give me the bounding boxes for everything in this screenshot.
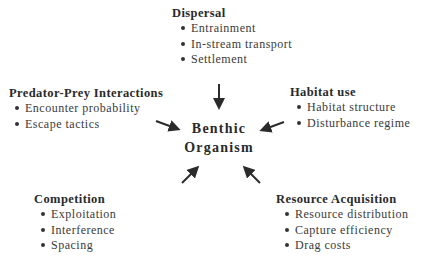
bullet-icon <box>41 212 45 216</box>
list-item: Drag costs <box>285 238 408 254</box>
group-predator-prey: Predator-Prey Interactions Encounter pro… <box>9 86 163 132</box>
bullet-icon <box>285 228 289 232</box>
center-line2: Organism <box>181 138 257 157</box>
arrow-resource <box>247 170 260 183</box>
list-item: Disturbance regime <box>297 116 410 132</box>
list-item: Exploitation <box>41 207 116 223</box>
list-item: In-stream transport <box>181 37 292 53</box>
group-competition: Competition Exploitation Interference Sp… <box>34 192 116 254</box>
group-title: Predator-Prey Interactions <box>9 86 163 101</box>
group-title: Resource Acquisition <box>276 192 408 207</box>
list-item: Resource distribution <box>285 207 408 223</box>
list-item: Encounter probability <box>15 101 163 117</box>
list-item: Capture efficiency <box>285 223 408 239</box>
arrow-habitat <box>265 122 284 129</box>
bullet-icon <box>285 212 289 216</box>
bullet-icon <box>285 243 289 247</box>
bullet-icon <box>15 122 19 126</box>
bullet-icon <box>15 106 19 110</box>
bullet-icon <box>181 26 185 30</box>
arrow-competition <box>182 170 195 183</box>
list-item: Settlement <box>181 52 292 68</box>
group-resource: Resource Acquisition Resource distributi… <box>276 192 408 254</box>
bullet-icon <box>41 228 45 232</box>
group-dispersal: Dispersal Entrainment In-stream transpor… <box>172 6 292 68</box>
bullet-icon <box>297 105 301 109</box>
list-item: Spacing <box>41 238 116 254</box>
bullet-icon <box>181 42 185 46</box>
group-title: Competition <box>34 192 116 207</box>
list-item: Escape tactics <box>15 117 163 133</box>
center-line1: Benthic <box>181 119 257 138</box>
center-node: Benthic Organism <box>181 119 257 157</box>
bullet-icon <box>181 57 185 61</box>
group-title: Habitat use <box>290 85 410 100</box>
list-item: Entrainment <box>181 21 292 37</box>
bullet-icon <box>297 121 301 125</box>
list-item: Interference <box>41 223 116 239</box>
group-habitat: Habitat use Habitat structure Disturbanc… <box>290 85 410 131</box>
bullet-icon <box>41 243 45 247</box>
group-title: Dispersal <box>172 6 292 21</box>
list-item: Habitat structure <box>297 100 410 116</box>
